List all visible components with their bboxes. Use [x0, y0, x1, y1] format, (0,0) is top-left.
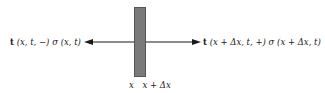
position-labels: x x + Δx	[129, 80, 177, 90]
stress-symbol: σ	[269, 37, 275, 47]
traction-vector: t	[203, 37, 207, 47]
element-slab	[134, 7, 146, 77]
stress-args: (x + Δx, t)	[277, 37, 321, 47]
traction-vector: t	[10, 37, 14, 47]
left-traction-label: t (x, t, −) σ (x, t)	[10, 37, 81, 47]
right-traction-label: t (x + Δx, t, +) σ (x + Δx, t)	[203, 37, 321, 47]
traction-args: (x + Δx, t, +)	[210, 37, 266, 47]
traction-args: (x, t, −)	[17, 37, 50, 47]
right-arrowhead-icon	[192, 39, 201, 45]
position-x-label: x	[129, 80, 134, 90]
stress-args: (x, t)	[61, 37, 81, 47]
left-arrowhead-icon	[84, 39, 93, 45]
position-x-plus-dx-label: x + Δx	[143, 80, 171, 90]
stress-symbol: σ	[52, 37, 58, 47]
